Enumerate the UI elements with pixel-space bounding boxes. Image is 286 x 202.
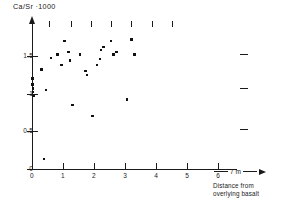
data-point: [43, 158, 45, 160]
data-point: [86, 74, 88, 76]
data-point: [50, 57, 52, 59]
y-axis-tick-label: 0.5: [23, 127, 33, 134]
data-point: [99, 58, 101, 60]
data-point: [126, 98, 128, 100]
top-border-tick: [71, 21, 72, 27]
y-axis-title: Ca/Sr ·1000: [13, 2, 56, 11]
x-axis-scale-marker: 7 m: [214, 168, 266, 175]
x-axis-tick-label: 5: [185, 172, 189, 179]
data-point: [69, 59, 71, 61]
top-border-tick: [111, 21, 112, 27]
data-point: [45, 89, 47, 91]
x-axis-tick: [156, 163, 157, 170]
axis-end-rule-left: [214, 171, 228, 172]
data-point: [96, 64, 98, 66]
x-axis-caption-line-2: overlying basalt: [213, 190, 259, 198]
top-border-tick: [91, 21, 92, 27]
data-point: [84, 70, 86, 72]
right-margin-dash: [240, 129, 248, 130]
scatter-plot-figure: Ca/Sr ·1000 1.510.500123456 7 m Distance…: [0, 0, 286, 202]
x-axis-arrowhead: [259, 169, 266, 175]
data-point: [32, 95, 34, 97]
data-point: [71, 104, 73, 106]
right-margin-dash: [240, 88, 248, 89]
x-axis-caption-line-1: Distance from: [213, 182, 259, 190]
top-border-tick: [49, 21, 50, 27]
right-margin-dash: [240, 54, 248, 55]
axis-end-rule-right: [243, 171, 257, 172]
data-point: [133, 53, 135, 55]
data-point: [102, 46, 104, 48]
data-point: [67, 51, 69, 53]
x-axis-tick-label: 3: [123, 172, 127, 179]
x-axis-tick: [187, 163, 188, 170]
data-point: [40, 68, 42, 70]
data-point: [112, 53, 114, 55]
x-axis-unit-label: 7 m: [230, 168, 241, 175]
x-axis-tick: [63, 163, 64, 170]
data-point: [63, 40, 65, 42]
top-border-tick: [172, 21, 173, 27]
top-border-tick: [152, 21, 153, 27]
x-axis-tick-label: 1: [61, 172, 65, 179]
x-axis-tick: [125, 163, 126, 170]
x-axis-tick-label: 2: [92, 172, 96, 179]
data-point: [32, 87, 34, 89]
x-axis-tick-label: 0: [30, 172, 34, 179]
data-point: [91, 115, 93, 117]
data-point: [31, 83, 33, 85]
data-point: [56, 53, 58, 55]
x-axis-tick: [94, 163, 95, 170]
x-axis-caption: Distance from overlying basalt: [213, 182, 259, 198]
data-point: [115, 51, 117, 53]
data-point: [32, 91, 34, 93]
data-point: [79, 53, 81, 55]
data-point: [31, 77, 33, 79]
data-point: [100, 49, 102, 51]
y-axis-tick-label: 1.5: [23, 52, 33, 59]
top-border-tick: [131, 21, 132, 27]
data-point: [60, 64, 62, 66]
data-point: [110, 40, 112, 42]
y-axis-tick-label: 0: [29, 165, 33, 172]
x-axis-tick-label: 4: [154, 172, 158, 179]
data-point: [130, 38, 132, 40]
